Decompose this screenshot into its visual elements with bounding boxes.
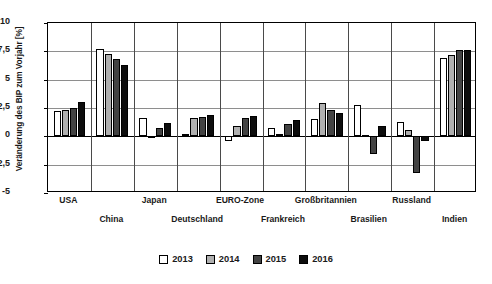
legend-label: 2013: [172, 254, 193, 264]
y-axis-title: Veränderung des BIP zum Vorjahr [%]: [14, 19, 24, 179]
bar: [464, 50, 471, 136]
legend-item-2013[interactable]: 2013: [159, 254, 193, 264]
bar: [113, 59, 120, 136]
bar: [96, 49, 103, 136]
x-tick-label-euro-zone: EURO-Zone: [195, 195, 285, 205]
bar: [362, 135, 369, 137]
bar-group: [177, 23, 220, 191]
bar: [70, 108, 77, 136]
bar: [148, 136, 155, 138]
bar-groups: [48, 23, 475, 191]
bar: [207, 115, 214, 137]
gdp-growth-bar-chart: Veränderung des BIP zum Vorjahr [%] 107,…: [0, 0, 492, 284]
x-tick-label-indien: Indien: [410, 214, 492, 224]
bar: [190, 118, 197, 136]
bar: [293, 120, 300, 136]
bar-group: [348, 23, 391, 191]
bar: [164, 123, 171, 137]
y-tick-label: -5: [0, 186, 10, 196]
y-tick-label: 5: [0, 73, 10, 83]
y-tick-label: 10: [0, 16, 10, 26]
bar-group: [391, 23, 434, 191]
bar: [448, 55, 455, 137]
x-tick-label-gro-britannien: Großbritannien: [281, 195, 371, 205]
bar: [378, 126, 385, 136]
bar: [250, 116, 257, 136]
bar: [276, 134, 283, 136]
bar: [105, 54, 112, 137]
bar: [311, 119, 318, 136]
bar: [413, 136, 420, 172]
bar: [78, 102, 85, 136]
bar: [268, 128, 275, 136]
bar-group: [263, 23, 306, 191]
bar-group: [91, 23, 134, 191]
bar: [199, 117, 206, 136]
bar: [62, 110, 69, 136]
bar: [156, 128, 163, 136]
x-tick-label-deutschland: Deutschland: [152, 214, 242, 224]
bar: [182, 134, 189, 136]
x-axis-category-labels: USAChinaJapanDeutschlandEURO-ZoneFrankre…: [47, 192, 476, 237]
y-tick-label: 2,5: [0, 101, 10, 111]
bar: [284, 124, 291, 136]
bar: [121, 65, 128, 136]
bar-group: [220, 23, 263, 191]
bar: [242, 118, 249, 136]
bar: [440, 58, 447, 136]
bar: [397, 122, 404, 137]
bar: [225, 136, 232, 141]
plot-area: [47, 22, 476, 192]
legend-swatch-icon: [253, 255, 262, 264]
bar: [405, 130, 412, 137]
x-tick-label-china: China: [66, 214, 156, 224]
x-tick-label-usa: USA: [23, 195, 113, 205]
x-tick-label-russland: Russland: [367, 195, 457, 205]
bar: [54, 111, 61, 136]
legend-label: 2014: [219, 254, 240, 264]
legend-item-2016[interactable]: 2016: [299, 254, 333, 264]
y-tick-label: -2,5: [0, 158, 10, 168]
legend-swatch-icon: [159, 255, 168, 264]
x-tick-label-frankreich: Frankreich: [238, 214, 328, 224]
bar: [139, 118, 146, 136]
x-tick-label-japan: Japan: [109, 195, 199, 205]
bar-group: [434, 23, 477, 191]
bar: [370, 136, 377, 154]
y-tick-label: 0: [0, 129, 10, 139]
bar-group: [134, 23, 177, 191]
bar: [319, 103, 326, 136]
bar-group: [305, 23, 348, 191]
legend-item-2015[interactable]: 2015: [253, 254, 287, 264]
bar: [421, 136, 428, 141]
bar-group: [48, 23, 91, 191]
bar: [327, 110, 334, 136]
bar: [354, 105, 361, 137]
y-tick-label: 7,5: [0, 44, 10, 54]
chart-legend: 2013201420152016: [0, 254, 492, 264]
legend-label: 2016: [312, 254, 333, 264]
bar: [336, 113, 343, 137]
legend-swatch-icon: [206, 255, 215, 264]
x-tick-label-brasilien: Brasilien: [324, 214, 414, 224]
legend-item-2014[interactable]: 2014: [206, 254, 240, 264]
legend-label: 2015: [266, 254, 287, 264]
legend-swatch-icon: [299, 255, 308, 264]
bar: [233, 126, 240, 136]
bar: [456, 50, 463, 136]
